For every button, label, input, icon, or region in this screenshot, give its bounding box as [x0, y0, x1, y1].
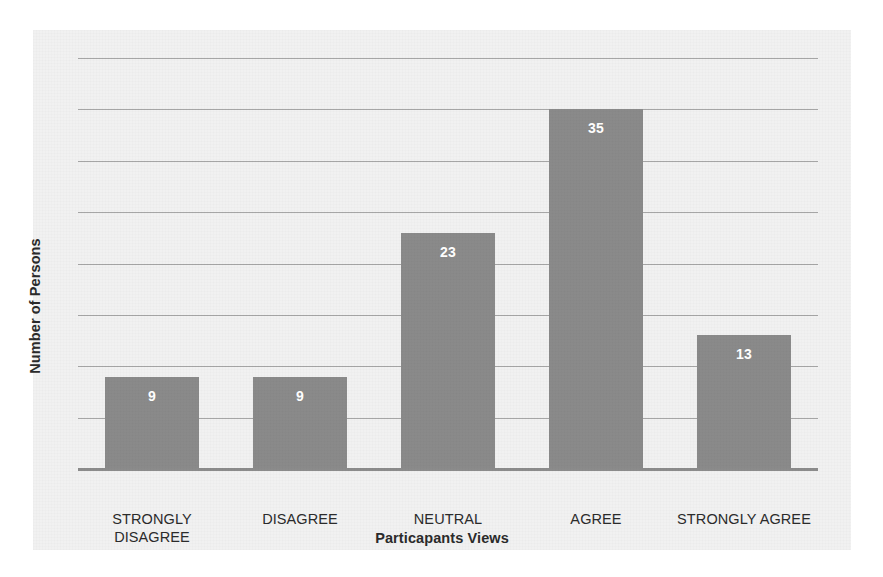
- bar-value-label: 35: [549, 120, 643, 136]
- bar-value-label: 9: [105, 388, 199, 404]
- gridline: [78, 161, 818, 162]
- gridline: [78, 109, 818, 110]
- bar[interactable]: 9: [105, 377, 199, 469]
- gridline: [78, 58, 818, 59]
- category-label-line: DISAGREE: [226, 510, 374, 528]
- x-axis-line: [78, 468, 818, 471]
- x-axis-title: Particapants Views: [33, 530, 851, 546]
- category-label: DISAGREE: [226, 510, 374, 528]
- bar[interactable]: 13: [697, 335, 791, 469]
- category-label-line: NEUTRAL: [374, 510, 522, 528]
- bar-value-label: 13: [697, 346, 791, 362]
- category-label-line: STRONGLY: [78, 510, 226, 528]
- category-label-line: AGREE: [522, 510, 670, 528]
- category-label-line: STRONGLY AGREE: [670, 510, 818, 528]
- category-label: NEUTRAL: [374, 510, 522, 528]
- bar[interactable]: 35: [549, 109, 643, 469]
- y-axis-title: Number of Persons: [27, 206, 43, 406]
- bar-value-label: 23: [401, 244, 495, 260]
- category-label: AGREE: [522, 510, 670, 528]
- bar[interactable]: 23: [401, 233, 495, 469]
- category-label: STRONGLY AGREE: [670, 510, 818, 528]
- plot-area: 99233513: [78, 58, 818, 469]
- bar-value-label: 9: [253, 388, 347, 404]
- gridline: [78, 212, 818, 213]
- bar[interactable]: 9: [253, 377, 347, 469]
- chart-frame: Number of Persons 99233513 STRONGLYDISAG…: [33, 30, 851, 550]
